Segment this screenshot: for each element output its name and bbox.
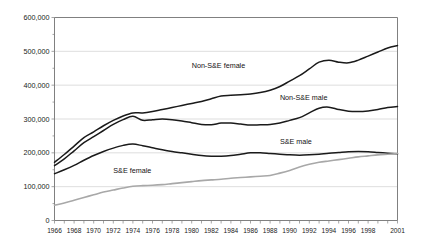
x-tick-label: 1968 [67,227,82,234]
y-tick-label: 100,000 [24,182,50,191]
series-line [55,106,398,165]
x-tick-label: 2001 [390,227,405,234]
series-label: Non-S&E male [280,93,328,102]
x-tick-label: 1978 [165,227,180,234]
line-chart: 600,000500,000400,000300,000200,000100,0… [0,0,421,249]
x-tick-label: 1982 [204,227,219,234]
x-tick-label: 1996 [341,227,356,234]
x-tick-label: 1972 [106,227,121,234]
x-tick-label: 1990 [282,227,297,234]
y-axis-tick-labels: 600,000500,000400,000300,000200,000100,0… [24,13,50,225]
series-line [55,154,398,206]
y-tick-label: 0 [46,216,50,225]
x-tick-label: 1966 [47,227,62,234]
y-tick-label: 500,000 [24,47,50,56]
y-tick-label: 600,000 [24,13,50,22]
x-tick-label: 1974 [126,227,141,234]
x-tick-label: 1994 [322,227,337,234]
gridlines [55,18,398,187]
x-tick-label: 1980 [184,227,199,234]
y-tick-label: 300,000 [24,115,50,124]
x-axis-tick-labels: 1966196819701972197419761978198019821984… [47,227,405,234]
x-tick-label: 1986 [243,227,258,234]
series-label: S&E female [113,166,151,175]
x-tick-label: 1988 [263,227,278,234]
x-tick-label: 1970 [86,227,101,234]
x-tick-label: 1998 [361,227,376,234]
y-tick-label: 400,000 [24,81,50,90]
chart-container: 600,000500,000400,000300,000200,000100,0… [0,0,421,249]
series-label: Non-S&E female [192,61,246,70]
x-tick-label: 1992 [302,227,317,234]
x-tick-label: 1984 [224,227,239,234]
x-tick-label: 1976 [145,227,160,234]
series-label: S&E male [280,137,312,146]
y-tick-label: 200,000 [24,148,50,157]
